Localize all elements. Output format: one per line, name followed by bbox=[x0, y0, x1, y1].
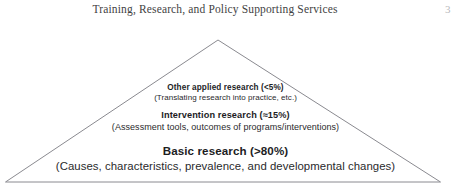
pyramid-tier-basic-research: Basic research (>80%) (Causes, character… bbox=[0, 143, 451, 174]
pyramid-tier-applied-research: Other applied research (<5%) (Translatin… bbox=[0, 83, 451, 103]
tier-intervention-heading: Intervention research (≈15%) bbox=[0, 110, 451, 121]
tier-applied-heading: Other applied research (<5%) bbox=[0, 83, 451, 93]
research-pyramid-figure: Other applied research (<5%) (Translatin… bbox=[0, 0, 451, 187]
tier-applied-subtitle: (Translating research into practice, etc… bbox=[0, 93, 451, 103]
tier-basic-subtitle: (Causes, characteristics, prevalence, an… bbox=[0, 158, 451, 174]
tier-intervention-subtitle: (Assessment tools, outcomes of programs/… bbox=[0, 121, 451, 133]
pyramid-tier-intervention-research: Intervention research (≈15%) (Assessment… bbox=[0, 110, 451, 133]
tier-basic-heading: Basic research (>80%) bbox=[0, 143, 451, 158]
